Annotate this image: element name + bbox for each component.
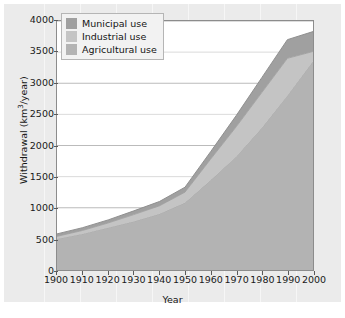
chart-legend: Municipal use Industrial use Agricultura…	[61, 13, 164, 60]
x-tick-mark	[82, 271, 83, 275]
legend-swatch-industrial	[66, 31, 77, 42]
x-tick-mark	[237, 271, 238, 275]
y-axis-ticks: 05001000150020002500300035004000	[14, 0, 54, 318]
legend-item-industrial: Industrial use	[66, 30, 157, 43]
x-tick-label: 2000	[299, 275, 329, 285]
y-tick-mark	[54, 208, 58, 209]
y-tick-label: 4000	[20, 15, 54, 25]
x-tick-mark	[185, 271, 186, 275]
chart-figure: Withdrawal (km3/year) 050010001500200025…	[0, 0, 345, 318]
legend-item-agricultural: Agricultural use	[66, 43, 157, 56]
legend-label-industrial: Industrial use	[82, 32, 146, 42]
area-series-group	[57, 32, 313, 270]
y-tick-mark	[54, 83, 58, 84]
x-tick-mark	[288, 271, 289, 275]
x-axis-title: Year	[0, 294, 345, 305]
y-tick-mark	[54, 240, 58, 241]
x-tick-mark	[133, 271, 134, 275]
x-tick-mark	[314, 271, 315, 275]
x-tick-mark	[56, 271, 57, 275]
legend-swatch-agricultural	[66, 44, 77, 55]
y-tick-mark	[54, 51, 58, 52]
x-tick-mark	[159, 271, 160, 275]
y-tick-label: 1500	[20, 172, 54, 182]
y-tick-mark	[54, 20, 58, 21]
y-tick-label: 1000	[20, 203, 54, 213]
y-tick-label: 2000	[20, 141, 54, 151]
x-tick-mark	[108, 271, 109, 275]
x-tick-mark	[211, 271, 212, 275]
canvas-margin-left	[0, 0, 4, 318]
x-axis-ticks: 1900191019201930194019501960197019801990…	[0, 273, 345, 287]
legend-swatch-municipal	[66, 18, 77, 29]
y-tick-label: 3500	[20, 46, 54, 56]
canvas-margin-right	[341, 0, 345, 318]
legend-label-municipal: Municipal use	[82, 19, 147, 29]
y-tick-label: 500	[20, 235, 54, 245]
y-tick-mark	[54, 146, 58, 147]
x-tick-mark	[262, 271, 263, 275]
legend-label-agricultural: Agricultural use	[82, 45, 157, 55]
legend-item-municipal: Municipal use	[66, 17, 157, 30]
y-tick-mark	[54, 177, 58, 178]
y-tick-mark	[54, 114, 58, 115]
y-tick-label: 3000	[20, 78, 54, 88]
y-tick-label: 2500	[20, 109, 54, 119]
